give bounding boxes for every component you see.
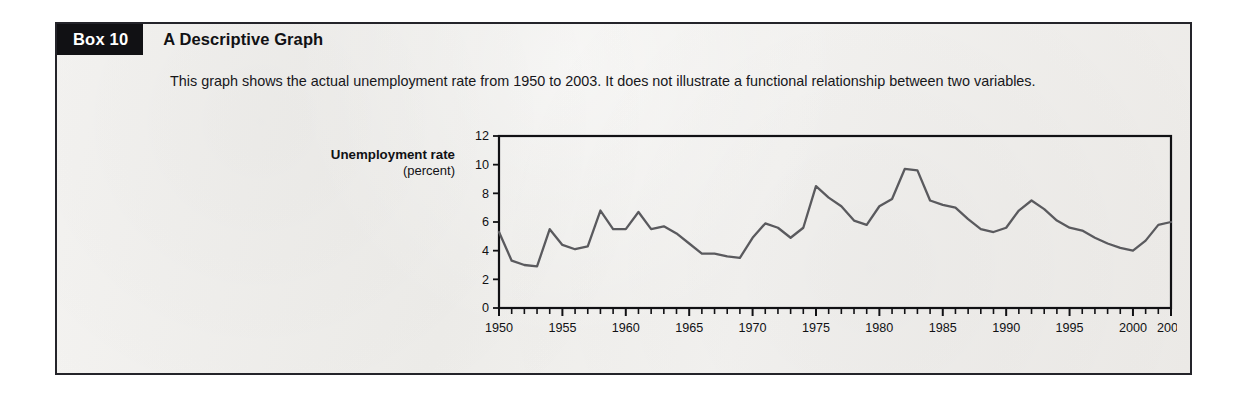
y-axis-tick-label: 12 xyxy=(475,129,489,143)
box-frame: Box 10 A Descriptive Graph This graph sh… xyxy=(55,22,1192,375)
box-number-tag: Box 10 xyxy=(57,24,143,55)
x-axis-tick-label: 1965 xyxy=(675,321,703,335)
y-axis-tick-label: 0 xyxy=(482,301,489,315)
x-axis-tick-label: 1985 xyxy=(929,321,957,335)
x-axis-tick-label: 1990 xyxy=(992,321,1020,335)
x-axis-tick-label: 1970 xyxy=(739,321,767,335)
y-axis-tick-label: 4 xyxy=(482,244,489,258)
box-header: Box 10 A Descriptive Graph xyxy=(57,24,323,55)
x-axis-tick-label: 1960 xyxy=(612,321,640,335)
plot-frame xyxy=(499,136,1171,308)
unemployment-line-chart: 0246810121950195519601965197019751980198… xyxy=(467,128,1177,358)
x-axis-tick-label: 2003 xyxy=(1157,321,1177,335)
y-axis-unit-label: (percent) xyxy=(217,163,455,179)
data-line-unemployment-rate xyxy=(499,169,1171,266)
y-axis-tick-label: 6 xyxy=(482,215,489,229)
y-axis-tick-label: 2 xyxy=(482,273,489,287)
chart-block: Unemployment rate (percent) 024681012195… xyxy=(217,128,1177,358)
box-title: A Descriptive Graph xyxy=(143,24,323,55)
y-axis-title: Unemployment rate xyxy=(217,147,455,163)
x-axis-tick-label: 1980 xyxy=(865,321,893,335)
y-axis-tick-label: 10 xyxy=(475,158,489,172)
x-axis-tick-label: 1955 xyxy=(548,321,576,335)
y-axis-tick-label: 8 xyxy=(482,187,489,201)
x-axis-tick-label: 1950 xyxy=(485,321,513,335)
x-axis-tick-label: 1975 xyxy=(802,321,830,335)
x-axis-tick-label: 2000 xyxy=(1119,321,1147,335)
box-description: This graph shows the actual unemployment… xyxy=(170,71,1180,93)
y-axis-title-group: Unemployment rate (percent) xyxy=(217,147,455,179)
x-axis-tick-label: 1995 xyxy=(1056,321,1084,335)
